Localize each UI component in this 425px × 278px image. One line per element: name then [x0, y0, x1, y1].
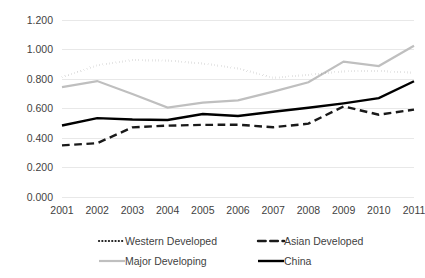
x-axis-tick-label: 2009	[332, 204, 356, 216]
series-line-major-developing	[62, 46, 414, 108]
x-axis-tick-label: 2004	[156, 204, 180, 216]
x-axis-tick-label: 2006	[226, 204, 250, 216]
x-axis-tick-labels: 2001200220032004200520062007200820092010…	[50, 204, 425, 216]
legend-label: Western Developed	[125, 235, 217, 247]
line-chart: 0.0000.2000.4000.6000.8001.0001.200 2001…	[0, 0, 425, 278]
y-axis-tick-label: 0.400	[27, 132, 53, 144]
y-axis-tick-label: 1.200	[27, 14, 53, 26]
x-axis-tick-label: 2007	[262, 204, 286, 216]
x-axis-tick-label: 2003	[121, 204, 145, 216]
chart-legend: Western DevelopedAsian DevelopedMajor De…	[99, 235, 364, 267]
y-axis-tick-label: 0.200	[27, 161, 53, 173]
y-axis-tick-label: 0.800	[27, 73, 53, 85]
y-axis-tick-label: 0.600	[27, 102, 53, 114]
gridlines	[62, 20, 414, 197]
legend-item-asian-developed: Asian Developed	[258, 235, 364, 247]
legend-item-major-developing: Major Developing	[99, 255, 207, 267]
y-axis-tick-label: 0.000	[27, 191, 53, 203]
x-axis-tick-label: 2010	[367, 204, 391, 216]
x-axis-tick-label: 2011	[403, 204, 425, 216]
y-axis-tick-label: 1.000	[27, 43, 53, 55]
legend-label: Major Developing	[125, 255, 207, 267]
legend-item-western-developed: Western Developed	[99, 235, 217, 247]
x-axis-tick-label: 2008	[297, 204, 321, 216]
x-axis-tick-label: 2005	[191, 204, 215, 216]
x-axis-tick-label: 2001	[50, 204, 74, 216]
y-axis-tick-labels: 0.0000.2000.4000.6000.8001.0001.200	[27, 14, 53, 203]
series-line-asian-developed	[62, 106, 414, 145]
legend-item-china: China	[258, 255, 312, 267]
series-lines	[62, 46, 414, 146]
chart-canvas: 0.0000.2000.4000.6000.8001.0001.200 2001…	[0, 0, 425, 278]
legend-label: China	[284, 255, 312, 267]
legend-label: Asian Developed	[284, 235, 364, 247]
x-axis-tick-label: 2002	[86, 204, 110, 216]
